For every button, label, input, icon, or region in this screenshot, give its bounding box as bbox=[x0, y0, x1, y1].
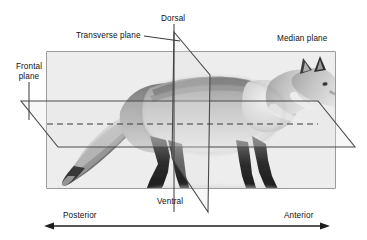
label-ventral: Ventral bbox=[157, 197, 183, 207]
label-posterior: Posterior bbox=[63, 211, 97, 221]
label-transverse-plane: Transverse plane bbox=[76, 31, 141, 41]
label-anterior: Anterior bbox=[284, 211, 313, 221]
label-dorsal: Dorsal bbox=[161, 14, 185, 24]
label-frontal-plane: Frontal plane bbox=[10, 62, 48, 81]
anatomical-planes-figure: Transverse plane Dorsal Median plane Fro… bbox=[0, 0, 367, 240]
label-frontal-plane-line1: Frontal bbox=[10, 62, 48, 72]
direction-axis-arrow bbox=[44, 222, 330, 229]
label-frontal-plane-line2: plane bbox=[10, 72, 48, 82]
arrowhead-anterior bbox=[320, 222, 330, 229]
arrowhead-posterior bbox=[44, 222, 54, 229]
label-median-plane: Median plane bbox=[277, 34, 327, 44]
